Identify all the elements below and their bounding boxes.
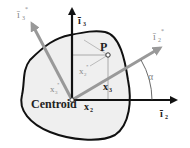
axis-i3-star-asterisk: * bbox=[25, 6, 28, 12]
x2-subscript: 2 bbox=[90, 107, 93, 113]
point-p-label: P bbox=[100, 40, 107, 54]
cross-section-shape bbox=[21, 31, 130, 140]
axis-i3-star-label: ī bbox=[16, 9, 20, 20]
x2-label: x bbox=[84, 101, 89, 112]
diagram-canvas: P Centroid ī 3 ī 2 ī 2 * ī 3 * x 2 * x 3… bbox=[0, 0, 190, 148]
axis-i3-label: ī bbox=[77, 15, 81, 26]
axis-i3-subscript: 3 bbox=[83, 21, 86, 27]
axis-i2-label: ī bbox=[159, 108, 163, 119]
axis-i3-star-subscript: 3 bbox=[22, 15, 25, 21]
axis-i2-subscript: 2 bbox=[165, 114, 168, 120]
centroid-label: Centroid bbox=[31, 97, 77, 111]
x3-subscript: 3 bbox=[109, 87, 112, 93]
angle-alpha-label: α bbox=[148, 71, 154, 82]
x3-label: x bbox=[103, 81, 108, 92]
axis-i2-star-label: ī bbox=[152, 31, 156, 42]
axis-i2-star-asterisk: * bbox=[161, 28, 164, 34]
axis-i2-star-subscript: 2 bbox=[158, 37, 161, 43]
